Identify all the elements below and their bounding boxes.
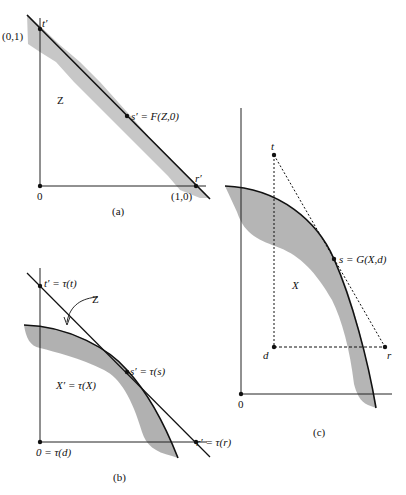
label-x-c: X [291, 279, 300, 291]
frontier-line-a [27, 15, 210, 199]
point-s-c [332, 257, 336, 261]
label-origin-c: 0 [238, 398, 244, 410]
label-region-z-a: Z [57, 94, 64, 106]
caption-b: (b) [113, 471, 126, 484]
tangent-line-b [27, 273, 210, 457]
label-s-prime-a: s′ = F(Z,0) [131, 110, 179, 123]
label-t-prime-b: t′ = τ(t) [44, 277, 77, 290]
label-origin-b: 0 = τ(d) [36, 446, 72, 459]
label-t-prime-a: t′ [42, 17, 48, 29]
origin-a [38, 184, 42, 188]
label-s-c: s = G(X,d) [339, 253, 387, 266]
caption-a: (a) [112, 205, 125, 218]
panel-b: t′ = τ(t) Z X′ = τ(X) s′ = τ(s) r′ = τ(r… [24, 268, 231, 484]
panel-a: t′ (0,1) Z s′ = F(Z,0) 0 r′ (1,0) (a) [2, 14, 210, 218]
point-d-c [272, 345, 276, 349]
figure: t′ (0,1) Z s′ = F(Z,0) 0 r′ (1,0) (a) t′… [0, 0, 406, 495]
label-s-prime-b: s′ = τ(s) [130, 365, 165, 378]
label-r-c: r [387, 349, 392, 361]
label-x-prime-b: X′ = τ(X) [55, 379, 96, 392]
shaded-region-x-prime [24, 325, 178, 458]
point-r-prime-a [194, 184, 198, 188]
label-0-1: (0,1) [2, 30, 23, 43]
origin-b [38, 440, 42, 444]
label-d-c: d [263, 349, 269, 361]
panel-c: t s = G(X,d) X d r 0 (c) [225, 108, 392, 439]
shaded-region-x [225, 186, 376, 408]
point-t-c [272, 153, 276, 157]
label-z-b: Z [92, 293, 99, 305]
origin-c [239, 392, 243, 396]
label-r-prime-a: r′ [195, 172, 202, 184]
point-s-prime-b [125, 370, 129, 374]
label-t-c: t [271, 140, 275, 152]
label-origin-a: 0 [37, 190, 43, 202]
point-s-prime-a [125, 114, 129, 118]
caption-c: (c) [313, 426, 326, 439]
label-1-0: (1,0) [171, 190, 192, 203]
label-r-prime-b: r′ = τ(r) [196, 436, 231, 449]
point-t-prime-b [38, 284, 42, 288]
